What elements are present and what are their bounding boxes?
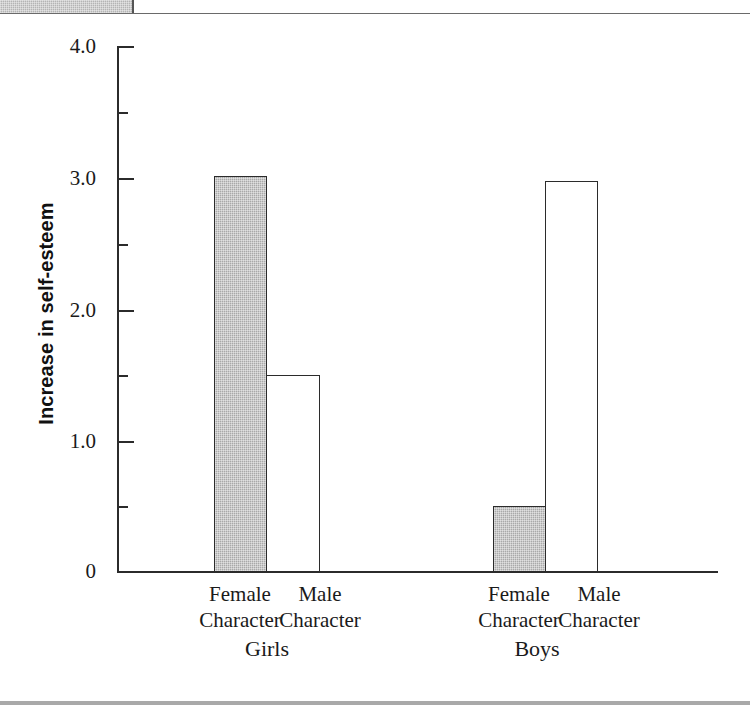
bar-chart: 4.0 3.0 2.0 1.0 0 Increase in self-estee… (0, 0, 750, 700)
y-tick-major-0 (117, 571, 134, 573)
bar-girls-female-character (214, 176, 267, 572)
bottom-horizontal-rule (0, 701, 750, 705)
y-tick-minor-0-5 (117, 506, 128, 508)
y-tick-minor-2-5 (117, 244, 128, 246)
group-label-boys: Boys (447, 636, 627, 662)
y-tick-label-0: 0 (36, 561, 96, 582)
bar-boys-male-character (545, 181, 598, 572)
y-tick-major-1 (117, 441, 134, 443)
y-tick-major-3 (117, 178, 134, 180)
y-tick-minor-3-5 (117, 112, 128, 114)
y-tick-minor-1-5 (117, 375, 128, 377)
group-label-girls: Girls (177, 636, 357, 662)
x-label-girls-male: Male Character (245, 581, 395, 633)
bar-boys-female-character (493, 506, 546, 572)
x-axis-line (117, 571, 718, 573)
x-label-girls-male-line2: Character (245, 607, 395, 633)
y-axis-title: Increase in self-esteem (35, 174, 58, 454)
x-label-boys-male-line1: Male (524, 581, 674, 607)
y-tick-major-4 (117, 46, 134, 48)
bar-girls-male-character (266, 375, 320, 572)
y-tick-major-2 (117, 310, 134, 312)
x-label-boys-male-line2: Character (524, 607, 674, 633)
y-tick-label-4: 4.0 (36, 36, 96, 57)
x-label-boys-male: Male Character (524, 581, 674, 633)
x-label-girls-male-line1: Male (245, 581, 395, 607)
